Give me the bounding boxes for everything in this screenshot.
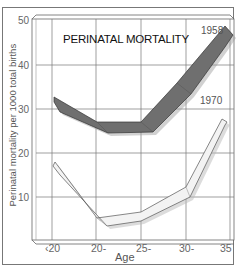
legend-label-1970: 1970: [200, 95, 222, 106]
y-axis-label: Perinatal mortality per 1000 total birth…: [7, 67, 18, 207]
x-tick-under-20: ‹20: [45, 242, 60, 254]
svg-text:50: 50: [18, 15, 30, 26]
chart-title: PERINATAL MORTALITY: [63, 33, 189, 45]
svg-text:30: 30: [18, 104, 30, 115]
legend-label-1958: 1958: [201, 25, 223, 36]
y-axis-ticks: 50 40 30 20 10: [18, 15, 30, 203]
svg-text:10: 10: [18, 192, 30, 203]
x-axis-label: Age: [115, 251, 135, 263]
x-tick-25: 25-: [136, 242, 151, 254]
top-caption: [70, 0, 170, 2]
x-tick-35: 35: [220, 242, 232, 254]
svg-text:40: 40: [18, 60, 30, 71]
x-tick-20: 20-: [91, 242, 106, 254]
svg-text:20: 20: [18, 148, 30, 159]
x-tick-30: 30-: [179, 242, 194, 254]
